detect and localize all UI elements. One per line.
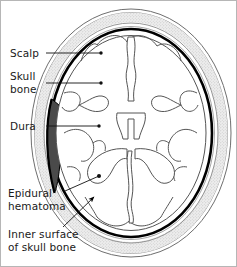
anatomical-figure-panel: Scalp Skull bone Dura Epidural hematoma … xyxy=(0,0,237,267)
head-cross-section-diagram xyxy=(1,1,236,266)
label-inner-surface-of-skull-bone: Inner surface of skull bone xyxy=(8,228,79,253)
label-epidural-hematoma: Epidural hematoma xyxy=(8,187,66,212)
label-dura: Dura xyxy=(10,120,36,133)
label-skull-bone: Skull bone xyxy=(10,70,37,95)
label-scalp: Scalp xyxy=(10,47,39,60)
